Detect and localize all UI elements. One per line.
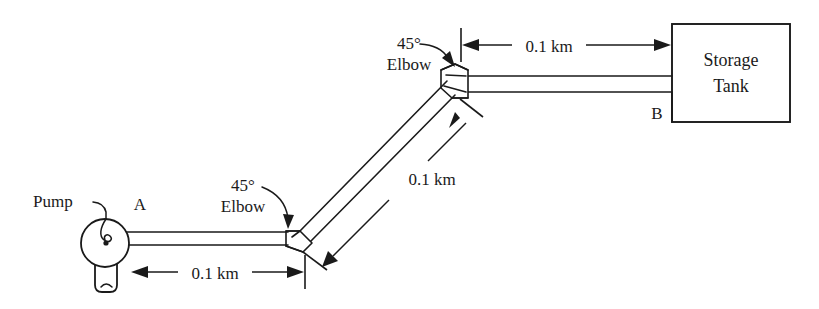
pipe-upper-horizontal (466, 76, 672, 122)
pump-leader-line (93, 202, 106, 219)
pipe-lower-horizontal (122, 232, 288, 245)
elbow-upper-fitting (441, 64, 468, 98)
storage-tank-label-line2: Tank (713, 76, 749, 96)
elbow-lower-angle-label: 45° (231, 176, 255, 195)
pipe-diagonal (299, 81, 455, 243)
elbow-lower-fitting (286, 231, 312, 252)
point-label-a: A (134, 195, 147, 214)
piping-diagram: Storage Tank (0, 0, 819, 309)
elbow-lower-type-label: Elbow (221, 197, 266, 216)
elbow-lower-leader-arrow (262, 187, 294, 229)
dimension-label-lower-horizontal: 0.1 km (191, 264, 238, 283)
pump-label: Pump (33, 192, 73, 211)
point-label-b: B (651, 104, 662, 123)
centrifugal-pump-icon (81, 219, 129, 292)
diagram-canvas: Storage Tank (0, 0, 819, 309)
storage-tank-label-line1: Storage (704, 50, 759, 70)
dimension-label-diagonal: 0.1 km (408, 170, 455, 189)
dimension-diagonal (303, 99, 483, 270)
storage-tank-icon (672, 24, 790, 122)
elbow-upper-type-label: Elbow (387, 55, 432, 74)
elbow-upper-angle-label: 45° (397, 34, 421, 53)
dimension-label-upper-horizontal: 0.1 km (525, 37, 572, 56)
